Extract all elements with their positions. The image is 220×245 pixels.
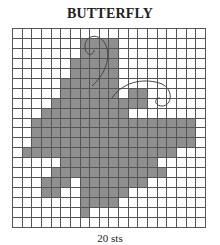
grid-cell-empty <box>32 178 42 188</box>
grid-cell-filled <box>81 158 91 168</box>
grid-cell-empty <box>52 158 62 168</box>
grid-cell-empty <box>109 29 119 39</box>
grid-cell-empty <box>187 208 197 218</box>
grid-cell-filled <box>52 168 62 178</box>
grid-cell-empty <box>23 128 33 138</box>
grid-cell-empty <box>100 208 110 218</box>
grid-cell-filled <box>129 178 139 188</box>
grid-cell-filled <box>90 158 100 168</box>
grid-cell-empty <box>177 109 187 119</box>
grid-cell-filled <box>81 119 91 129</box>
grid-cell-filled <box>158 138 168 148</box>
grid-cell-empty <box>167 188 177 198</box>
grid-cell-filled <box>90 168 100 178</box>
grid-cell-filled <box>81 69 91 79</box>
grid-cell-filled <box>129 138 139 148</box>
grid-cell-empty <box>187 69 197 79</box>
grid-cell-filled <box>90 39 100 49</box>
grid-cell-filled <box>71 99 81 109</box>
grid-cell-empty <box>42 168 52 178</box>
grid-cell-empty <box>71 29 81 39</box>
grid-cell-filled <box>177 138 187 148</box>
grid-cell-empty <box>32 69 42 79</box>
grid-cell-empty <box>42 198 52 208</box>
grid-cell-empty <box>158 69 168 79</box>
grid-cell-empty <box>158 39 168 49</box>
grid-cell-empty <box>167 79 177 89</box>
grid-cell-empty <box>61 69 71 79</box>
grid-cell-filled <box>90 99 100 109</box>
grid-cell-filled <box>90 128 100 138</box>
grid-cell-empty <box>13 198 23 208</box>
grid-cell-empty <box>177 198 187 208</box>
grid-cell-empty <box>129 218 139 228</box>
grid-cell-empty <box>196 208 206 218</box>
grid-cell-filled <box>52 138 62 148</box>
grid-cell-filled <box>129 119 139 129</box>
grid-cell-filled <box>148 148 158 158</box>
grid-cell-filled <box>81 89 91 99</box>
grid-cell-empty <box>196 49 206 59</box>
grid-cell-filled <box>138 168 148 178</box>
grid-cell-empty <box>167 178 177 188</box>
grid-cell-empty <box>177 89 187 99</box>
grid-cell-filled <box>138 138 148 148</box>
grid-cell-filled <box>148 138 158 148</box>
grid-cell-empty <box>32 168 42 178</box>
grid-cell-empty <box>187 218 197 228</box>
grid-cell-empty <box>187 109 197 119</box>
grid-cell-filled <box>158 168 168 178</box>
grid-cell-filled <box>158 128 168 138</box>
grid-cell-filled <box>100 79 110 89</box>
grid-cell-filled <box>109 79 119 89</box>
grid-cell-filled <box>100 138 110 148</box>
grid-cell-empty <box>119 59 129 69</box>
grid-cell-filled <box>100 178 110 188</box>
grid-cell-empty <box>42 39 52 49</box>
grid-cell-empty <box>196 39 206 49</box>
grid-cell-empty <box>13 59 23 69</box>
grid-cell-empty <box>61 208 71 218</box>
grid-cell-empty <box>52 69 62 79</box>
grid-cell-empty <box>129 39 139 49</box>
grid-cell-empty <box>196 158 206 168</box>
grid-cell-empty <box>119 29 129 39</box>
grid-cell-empty <box>13 138 23 148</box>
grid-cell-empty <box>13 178 23 188</box>
grid-cell-empty <box>32 109 42 119</box>
grid-cell-empty <box>187 168 197 178</box>
grid-cell-filled <box>90 89 100 99</box>
grid-cell-filled <box>100 158 110 168</box>
grid-cell-filled <box>119 178 129 188</box>
grid-cell-empty <box>23 138 33 148</box>
grid-cell-empty <box>177 79 187 89</box>
grid-cell-filled <box>90 79 100 89</box>
grid-cell-empty <box>196 99 206 109</box>
grid-cell-filled <box>167 119 177 129</box>
grid-cell-filled <box>119 138 129 148</box>
grid-cell-empty <box>138 39 148 49</box>
grid-cell-filled <box>129 128 139 138</box>
grid-cell-filled <box>100 188 110 198</box>
grid-cell-filled <box>138 119 148 129</box>
grid-cell-empty <box>42 99 52 109</box>
grid-cell-empty <box>52 49 62 59</box>
grid-cell-filled <box>81 39 91 49</box>
grid-cell-filled <box>187 119 197 129</box>
grid-cell-empty <box>158 198 168 208</box>
grid-cell-empty <box>129 59 139 69</box>
grid-cell-empty <box>187 198 197 208</box>
grid-cell-filled <box>81 178 91 188</box>
grid-cell-filled <box>177 128 187 138</box>
grid-cell-filled <box>119 188 129 198</box>
grid-cell-empty <box>158 59 168 69</box>
grid-cell-empty <box>32 208 42 218</box>
grid-cell-empty <box>81 218 91 228</box>
grid-cell-empty <box>148 59 158 69</box>
grid-cell-filled <box>61 99 71 109</box>
grid-cell-filled <box>138 128 148 138</box>
grid-cell-empty <box>148 39 158 49</box>
grid-cell-filled <box>90 178 100 188</box>
grid-cell-filled <box>100 198 110 208</box>
grid-cell-empty <box>23 158 33 168</box>
